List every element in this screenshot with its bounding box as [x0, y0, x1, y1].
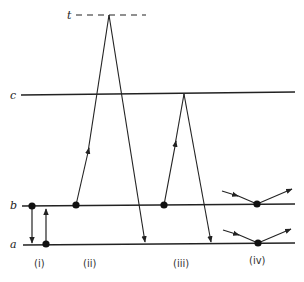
level-c-line: [21, 92, 295, 95]
caption-i: (i): [34, 258, 45, 269]
level-label-c: c: [10, 89, 16, 102]
caption-iv: (iv): [249, 255, 266, 266]
particle-dot: [160, 201, 167, 208]
process-ii: [72, 15, 145, 242]
caption-ii: (ii): [83, 258, 96, 269]
particle-dot: [28, 202, 35, 209]
particle-dot: [42, 240, 49, 247]
particle-dot: [254, 239, 261, 246]
level-label-t: t: [67, 9, 72, 22]
level-label-b: b: [10, 199, 17, 212]
particle-dot: [253, 200, 260, 207]
process-i: [28, 202, 49, 247]
energy-level-diagram: t c b a (i) (ii) (iii) (i: [0, 0, 304, 282]
particle-dot: [72, 201, 79, 208]
level-label-a: a: [10, 238, 17, 251]
process-iv: [222, 189, 292, 247]
level-a-line: [23, 243, 295, 245]
process-iii: [160, 94, 211, 242]
caption-iii: (iii): [173, 258, 189, 269]
